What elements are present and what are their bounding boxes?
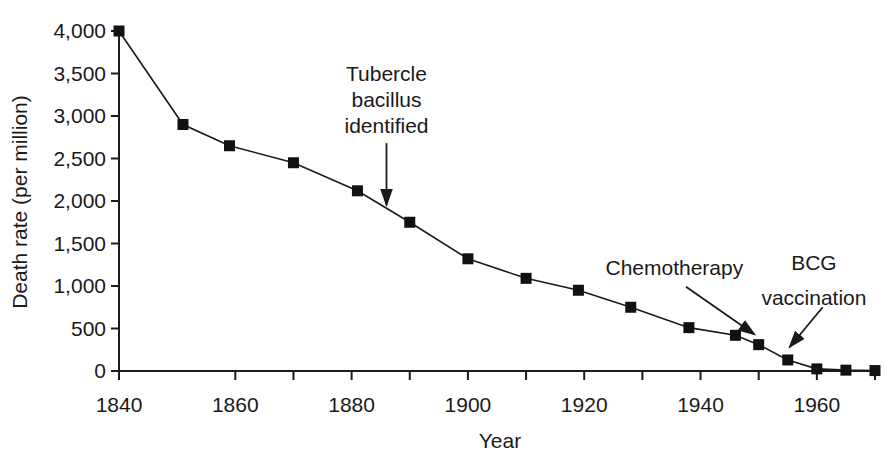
annotation-tubercle-line-1: Tubercle [344, 61, 428, 87]
annotation-chemotherapy-line-1: Chemotherapy [605, 255, 743, 281]
y-axis-title: Death rate (per million) [8, 95, 32, 309]
y-tick-label: 1,500 [53, 232, 106, 255]
x-tick-label: 1940 [677, 393, 724, 416]
y-tick-label: 1,000 [53, 274, 106, 297]
x-tick-label: 1880 [328, 393, 375, 416]
data-point-marker [782, 354, 793, 365]
data-point-marker [683, 322, 694, 333]
axes: 05001,0001,5002,0002,5003,0003,5004,0001… [53, 19, 879, 416]
annotation-tubercle-line-3: identified [344, 113, 428, 139]
x-tick-label: 1960 [793, 393, 840, 416]
annotation-arrows [387, 143, 823, 347]
y-tick-label: 500 [71, 317, 106, 340]
y-tick-label: 2,000 [53, 189, 106, 212]
x-tick-label: 1860 [212, 393, 259, 416]
data-point-marker [730, 330, 741, 341]
data-point-marker [404, 217, 415, 228]
data-point-marker [625, 302, 636, 313]
y-tick-label: 3,500 [53, 62, 106, 85]
data-point-marker [114, 26, 125, 37]
x-tick-label: 1920 [561, 393, 608, 416]
y-tick-label: 4,000 [53, 19, 106, 42]
annotation-tubercle: Tubercle bacillus identified [344, 61, 428, 139]
annotation-arrow-chemotherapy [686, 287, 755, 335]
data-point-marker [870, 365, 881, 376]
y-tick-label: 0 [94, 359, 106, 382]
data-point-marker [573, 285, 584, 296]
y-tick-label: 2,500 [53, 147, 106, 170]
y-tick-label: 3,000 [53, 104, 106, 127]
data-point-marker [840, 365, 851, 376]
data-point-marker [177, 119, 188, 130]
x-axis-title: Year [479, 429, 521, 453]
data-point-marker [352, 185, 363, 196]
data-series [114, 26, 881, 377]
x-tick-label: 1900 [445, 393, 492, 416]
data-point-marker [811, 363, 822, 374]
annotation-chemotherapy: Chemotherapy [605, 255, 743, 281]
annotation-bcg-line-1: BCG [761, 245, 866, 280]
data-point-marker [288, 157, 299, 168]
data-point-marker [521, 273, 532, 284]
annotation-tubercle-line-2: bacillus [344, 87, 428, 113]
annotation-bcg: BCG vaccination [761, 245, 866, 315]
data-point-marker [224, 140, 235, 151]
annotation-bcg-line-2: vaccination [761, 280, 866, 315]
data-point-marker [753, 339, 764, 350]
figure: 05001,0001,5002,0002,5003,0003,5004,0001… [0, 0, 887, 468]
line-chart: 05001,0001,5002,0002,5003,0003,5004,0001… [0, 0, 887, 468]
x-tick-label: 1840 [96, 393, 143, 416]
series-line [119, 31, 875, 371]
data-point-marker [462, 253, 473, 264]
